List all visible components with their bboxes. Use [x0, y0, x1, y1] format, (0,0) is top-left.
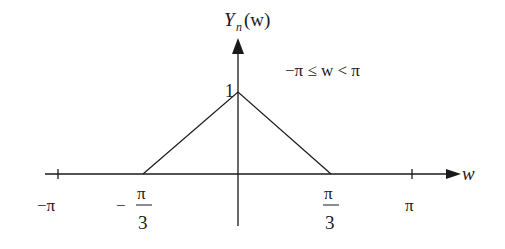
tick-label-third-num: π	[324, 184, 333, 203]
w-axis-arrow-icon	[446, 169, 461, 179]
tick-label-neg-third-num: π	[137, 184, 146, 203]
tick-label-neg-third-den: 3	[138, 212, 148, 233]
y-axis-label-sub: n	[236, 20, 242, 34]
range-annotation: −π ≤ w < π	[285, 61, 360, 80]
tick-label-pi: π	[405, 196, 414, 215]
triangle-spectrum-diagram: Y n (w) −π ≤ w < π 1 w −π π − π 3 π 3	[0, 0, 505, 249]
peak-label: 1	[225, 81, 234, 101]
y-axis-label-arg: (w)	[244, 9, 270, 31]
y-axis-arrow-icon	[232, 38, 244, 54]
triangle-curve	[143, 92, 331, 174]
tick-label-third-den: 3	[325, 212, 335, 233]
w-axis-label: w	[462, 163, 475, 184]
tick-label-neg-third-sign: −	[116, 196, 126, 215]
tick-label-neg-pi: −π	[37, 196, 56, 215]
